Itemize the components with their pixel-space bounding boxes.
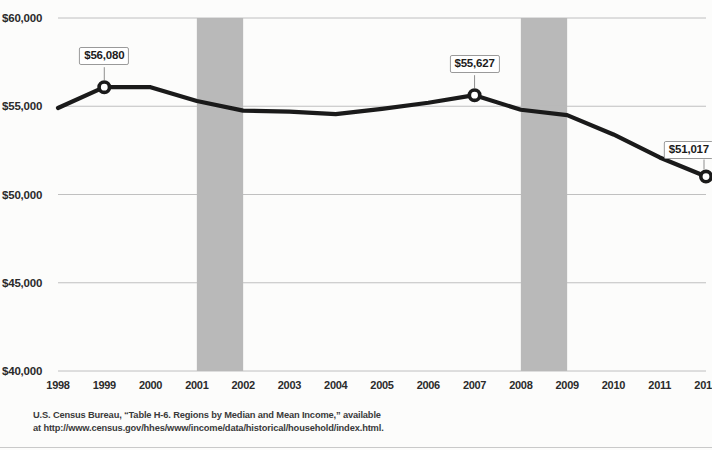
data-point-markers	[99, 82, 711, 182]
x-tick-2007: 2007	[463, 379, 486, 391]
x-tick-2005: 2005	[370, 379, 393, 391]
callout-leader-lines	[104, 67, 704, 169]
y-tick-60000: $60,000	[2, 12, 42, 24]
source-note-line-1: U.S. Census Bureau, “Table H-6. Regions …	[33, 409, 673, 422]
gridlines	[58, 18, 706, 371]
y-tick-55000: $55,000	[2, 100, 42, 112]
x-tick-2001: 2001	[185, 379, 208, 391]
source-note-line-2: at http://www.census.gov/hhes/www/income…	[33, 422, 673, 435]
data-label-2007: $55,627	[449, 55, 499, 73]
x-tick-2010: 2010	[602, 379, 625, 391]
data-point-marker-2012	[701, 171, 711, 181]
x-tick-2011: 2011	[648, 379, 671, 391]
x-tick-2002: 2002	[232, 379, 255, 391]
y-tick-40000: $40,000	[2, 365, 42, 377]
x-tick-2009: 2009	[556, 379, 579, 391]
data-point-marker-2007	[469, 90, 479, 100]
data-line-median-income	[58, 87, 706, 176]
x-tick-2008: 2008	[509, 379, 532, 391]
x-tick-1998: 1998	[46, 379, 69, 391]
y-tick-50000: $50,000	[2, 189, 42, 201]
y-tick-45000: $45,000	[2, 277, 42, 289]
data-point-marker-1999	[99, 82, 109, 92]
income-line-chart-figure: $60,000$55,000$50,000$45,000$40,000 1998…	[0, 0, 712, 450]
x-tick-2000: 2000	[139, 379, 162, 391]
x-tick-2006: 2006	[417, 379, 440, 391]
data-label-2012: $51,017	[664, 141, 712, 159]
bottom-divider	[0, 447, 712, 448]
x-tick-2012: 2012	[694, 379, 712, 391]
source-note: U.S. Census Bureau, “Table H-6. Regions …	[33, 409, 673, 436]
x-tick-2004: 2004	[324, 379, 347, 391]
x-tick-1999: 1999	[93, 379, 116, 391]
x-tick-2003: 2003	[278, 379, 301, 391]
data-label-1999: $56,080	[79, 47, 129, 65]
